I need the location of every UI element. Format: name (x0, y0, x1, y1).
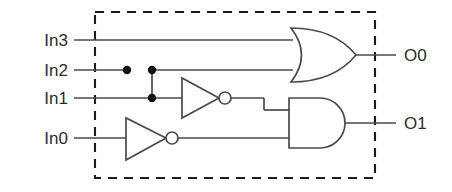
circuit-diagram: In3 In2 In1 In0 O0 O1 (0, 0, 452, 192)
output-label-o1: O1 (404, 114, 427, 133)
in2-branch-dot (148, 66, 156, 74)
inverter-upper-body (182, 78, 219, 118)
inverter-lower-body (126, 118, 166, 160)
inverter-lower-bubble-icon (166, 132, 178, 144)
output-label-o0: O0 (404, 46, 427, 65)
input-label-in2: In2 (44, 61, 68, 80)
and-gate-body (289, 98, 345, 148)
in2-terminal-dot (123, 66, 131, 74)
inverter-upper-bubble-icon (219, 92, 231, 104)
or-gate-body (291, 28, 356, 82)
input-label-in0: In0 (44, 129, 68, 148)
input-label-in1: In1 (44, 89, 68, 108)
circuit-canvas: In3 In2 In1 In0 O0 O1 (0, 0, 452, 192)
in1-branch-dot (148, 94, 156, 102)
input-label-in3: In3 (44, 31, 68, 50)
